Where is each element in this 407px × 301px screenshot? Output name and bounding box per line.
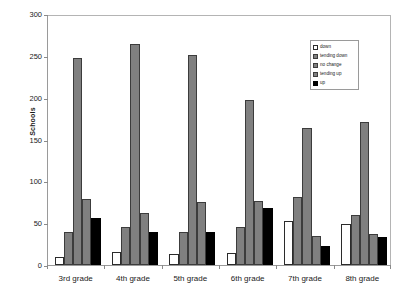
legend-item: down xyxy=(313,43,356,51)
bar-chart-figure: Schools 300250200150100500 3rd grade4th … xyxy=(0,0,407,301)
bar xyxy=(312,236,321,265)
legend-item-label: down xyxy=(320,44,331,50)
legend-item-label: tending down xyxy=(320,53,347,59)
x-axis-tick-label: 6th grade xyxy=(219,274,276,284)
legend-item-label: no change xyxy=(320,62,341,68)
x-axis-tick-mark xyxy=(162,265,163,269)
bar xyxy=(254,201,263,265)
y-axis-tick-labels: 300250200150100500 xyxy=(16,0,42,301)
bar xyxy=(263,208,272,265)
bar xyxy=(351,215,360,265)
y-axis-tick-label: 200 xyxy=(16,95,42,103)
bar-group xyxy=(169,16,215,265)
legend-swatch-icon xyxy=(313,54,318,59)
x-axis-tick-marks xyxy=(47,265,391,270)
bar xyxy=(284,221,293,265)
x-axis-tick-mark xyxy=(219,265,220,269)
legend-swatch-icon xyxy=(313,63,318,68)
bar xyxy=(130,44,139,265)
bar xyxy=(169,254,178,265)
y-axis-tick-mark xyxy=(44,141,48,142)
y-axis-tick-mark xyxy=(44,15,48,16)
legend-item: tending up xyxy=(313,70,356,78)
bar xyxy=(55,257,64,265)
bar-group xyxy=(112,16,158,265)
bar xyxy=(112,252,121,265)
x-axis-tick-labels: 3rd grade4th grade5th grade6th grade7th … xyxy=(47,274,391,288)
bar xyxy=(378,237,387,265)
x-axis-tick-mark xyxy=(390,265,391,269)
legend-item-label: tending up xyxy=(320,71,341,77)
y-axis-tick-label: 0 xyxy=(16,262,42,270)
bar xyxy=(369,234,378,265)
bar xyxy=(197,202,206,265)
x-axis-tick-label: 4th grade xyxy=(104,274,161,284)
bar xyxy=(82,199,91,265)
x-axis-tick-mark xyxy=(334,265,335,269)
x-axis-tick-label: 8th grade xyxy=(334,274,391,284)
y-axis-tick-mark xyxy=(44,224,48,225)
y-axis-tick-label: 150 xyxy=(16,137,42,145)
bar xyxy=(360,122,369,265)
legend-item: no change xyxy=(313,61,356,69)
y-axis-tick-mark xyxy=(44,99,48,100)
bar xyxy=(64,232,73,265)
x-axis-tick-label: 7th grade xyxy=(276,274,333,284)
legend-swatch-icon xyxy=(313,81,318,86)
legend-item-label: up xyxy=(320,80,325,86)
x-axis-tick-label: 3rd grade xyxy=(47,274,104,284)
bar xyxy=(321,246,330,265)
bar xyxy=(341,224,350,265)
y-axis-tick-mark xyxy=(44,182,48,183)
x-axis-tick-mark xyxy=(276,265,277,269)
y-axis-tick-mark xyxy=(44,266,48,267)
bar xyxy=(73,58,82,265)
legend-item: up xyxy=(313,79,356,87)
bar xyxy=(91,218,100,265)
bar xyxy=(293,197,302,265)
y-axis-tick-label: 300 xyxy=(16,11,42,19)
x-axis-tick-label: 5th grade xyxy=(162,274,219,284)
bar xyxy=(302,128,311,265)
y-axis-tick-label: 50 xyxy=(16,220,42,228)
bar xyxy=(188,55,197,265)
bar xyxy=(206,232,215,265)
legend-swatch-icon xyxy=(313,45,318,50)
bar xyxy=(227,253,236,265)
y-axis-tick-mark xyxy=(44,57,48,58)
y-axis-tick-label: 250 xyxy=(16,53,42,61)
bar-group xyxy=(227,16,273,265)
bar-group xyxy=(55,16,101,265)
legend-item: tending down xyxy=(313,52,356,60)
x-axis-tick-mark xyxy=(104,265,105,269)
y-axis-tick-label: 100 xyxy=(16,178,42,186)
legend-swatch-icon xyxy=(313,72,318,77)
bar xyxy=(121,227,130,265)
bar xyxy=(179,232,188,265)
bar xyxy=(149,232,158,265)
bar xyxy=(245,100,254,265)
bar xyxy=(140,213,149,265)
bar xyxy=(236,227,245,265)
chart-legend: downtending downno changetending upup xyxy=(310,40,359,90)
